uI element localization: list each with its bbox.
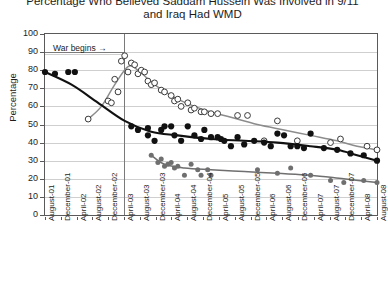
y-tick-label: 60 xyxy=(0,101,38,110)
data-point xyxy=(125,69,131,75)
data-point xyxy=(145,132,151,138)
data-point xyxy=(208,134,214,140)
data-point xyxy=(109,100,115,106)
data-point xyxy=(112,76,118,82)
data-point xyxy=(135,127,141,133)
data-point xyxy=(149,153,154,158)
data-point xyxy=(115,89,121,95)
data-point xyxy=(235,113,241,119)
x-tick-label: April-03 xyxy=(127,193,135,221)
data-point xyxy=(191,132,197,138)
data-point xyxy=(234,134,240,140)
x-tick-mark xyxy=(251,217,252,220)
data-point xyxy=(72,69,78,75)
x-tick-label: December-04 xyxy=(206,173,214,221)
data-point xyxy=(142,69,148,75)
x-tick-mark xyxy=(282,217,283,220)
data-point xyxy=(161,123,167,129)
data-point xyxy=(288,165,293,170)
data-point xyxy=(294,138,300,144)
x-tick-label: April-08 xyxy=(364,193,372,221)
x-tick-mark xyxy=(140,217,141,220)
data-point xyxy=(171,132,177,138)
data-point xyxy=(162,89,168,95)
x-tick-mark xyxy=(298,217,299,220)
x-tick-label: December-06 xyxy=(301,173,309,221)
data-point xyxy=(65,69,71,75)
data-point xyxy=(328,178,333,183)
data-point xyxy=(85,116,91,122)
x-tick-label: August-03 xyxy=(143,185,151,221)
x-axis-ticks: August-01December-01April-02August-02Dec… xyxy=(44,217,378,281)
y-tick-label: 30 xyxy=(0,156,38,165)
data-point xyxy=(189,162,194,167)
data-point xyxy=(132,62,138,68)
x-tick-mark xyxy=(187,217,188,220)
data-point xyxy=(301,145,307,151)
x-tick-label: August-04 xyxy=(190,185,198,221)
data-point xyxy=(151,138,157,144)
data-point xyxy=(122,53,128,59)
x-tick-mark xyxy=(156,217,157,220)
trend-line xyxy=(88,66,377,150)
y-tick-label: 70 xyxy=(0,83,38,92)
data-point xyxy=(361,152,367,158)
data-point xyxy=(198,136,204,142)
x-tick-label: December-02 xyxy=(111,173,119,221)
data-point xyxy=(168,93,174,99)
x-tick-mark xyxy=(45,217,46,220)
chart-title: Percentage Who Believed Saddam Hussein W… xyxy=(0,0,385,21)
data-point xyxy=(175,96,181,102)
y-tick-label: 90 xyxy=(0,47,38,56)
data-point xyxy=(228,143,234,149)
x-tick-mark xyxy=(92,217,93,220)
x-tick-label: August-02 xyxy=(95,185,103,221)
data-point xyxy=(281,132,287,138)
x-tick-mark xyxy=(77,217,78,220)
data-point xyxy=(178,138,184,144)
data-point xyxy=(201,109,207,115)
x-tick-mark xyxy=(219,217,220,220)
data-point xyxy=(168,123,174,129)
data-point xyxy=(274,130,280,136)
x-tick-label: August-07 xyxy=(333,185,341,221)
x-tick-label: December-01 xyxy=(64,173,72,221)
x-tick-mark xyxy=(108,217,109,220)
data-point xyxy=(341,180,346,185)
x-tick-label: December-05 xyxy=(254,173,262,221)
data-point xyxy=(152,80,158,86)
data-point xyxy=(192,105,198,111)
series-1 xyxy=(85,53,380,153)
data-point xyxy=(334,147,340,153)
data-point xyxy=(52,71,58,77)
data-point xyxy=(205,167,210,172)
y-tick-label: 20 xyxy=(0,174,38,183)
data-point xyxy=(42,69,48,75)
x-tick-mark xyxy=(361,217,362,220)
data-point xyxy=(275,118,281,124)
data-point xyxy=(374,158,380,164)
data-point xyxy=(288,143,294,149)
data-point xyxy=(178,104,184,110)
data-point xyxy=(185,123,191,129)
data-point xyxy=(245,113,251,119)
chart-title-line1: Percentage Who Believed Saddam Hussein W… xyxy=(0,0,385,8)
x-tick-label: April-07 xyxy=(317,193,325,221)
data-point xyxy=(261,140,267,146)
data-point xyxy=(241,141,247,147)
data-point xyxy=(175,164,180,169)
data-point xyxy=(128,123,134,129)
x-tick-label: August-06 xyxy=(285,185,293,221)
x-tick-mark xyxy=(314,217,315,220)
data-point xyxy=(199,173,204,178)
data-point xyxy=(374,147,380,153)
data-point xyxy=(268,143,274,149)
data-point xyxy=(338,136,344,142)
data-point xyxy=(294,143,300,149)
x-tick-label: August-01 xyxy=(48,185,56,221)
data-point xyxy=(215,111,221,117)
data-point xyxy=(347,150,353,156)
x-tick-mark xyxy=(171,217,172,220)
data-point xyxy=(185,100,191,106)
